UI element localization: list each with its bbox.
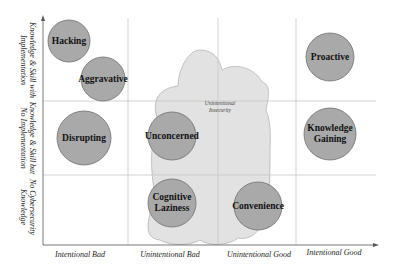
svg-text:Gaining: Gaining [314,134,347,144]
y-label-knowledge-no-impl-2: No Implementation [19,106,28,169]
svg-text:Proactive: Proactive [311,52,349,62]
behavior-quadrant-diagram: Unintentional Insecurity Hacking Aggrava… [0,0,398,271]
y-axis-arrow-icon [41,15,45,21]
circle-hacking: Hacking [48,20,90,62]
circle-aggravative: Aggravative [78,57,128,101]
svg-text:Convenience: Convenience [232,201,284,211]
svg-text:Unconcerned: Unconcerned [145,131,200,141]
y-label-knowledge-with-impl-1: Knowledge & Skill with [28,21,37,98]
x-axis-arrow-icon [373,243,379,247]
circle-knowledge-gaining: Knowledge Gaining [304,108,356,160]
y-label-knowledge-with-impl-2: Implementation [19,34,28,85]
y-label-no-knowledge-1: No Cybersecurity [28,178,37,236]
cloud-label-line1: Unintentional [205,100,236,106]
svg-text:Hacking: Hacking [52,36,87,46]
svg-text:Cognitive: Cognitive [152,192,191,202]
x-label-unintentional-good: Unintentional Good [227,250,292,259]
circle-cognitive-laziness: Cognitive Laziness [148,179,196,227]
y-label-knowledge-no-impl-1: Knowledge & Skill but [28,101,37,175]
svg-text:Disrupting: Disrupting [62,133,106,143]
svg-text:Aggravative: Aggravative [78,74,128,84]
svg-text:Laziness: Laziness [155,203,190,213]
circle-proactive: Proactive [306,33,354,81]
svg-text:Knowledge: Knowledge [307,123,352,133]
x-label-intentional-bad: Intentional Bad [54,250,106,259]
x-label-unintentional-bad: Unintentional Bad [140,250,200,259]
cloud-label-line2: Insecurity [208,107,232,113]
y-label-no-knowledge-2: Knowledge [19,188,28,225]
x-label-intentional-good: Intentional Good [306,248,363,257]
circle-disrupting: Disrupting [57,111,111,165]
